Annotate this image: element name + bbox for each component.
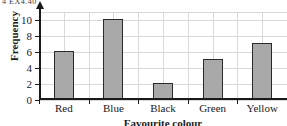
x-tick-label-red: Red <box>55 102 73 114</box>
x-tick-label-blue: Blue <box>103 102 124 114</box>
x-axis-line <box>39 98 287 100</box>
gridline-vertical <box>188 12 189 100</box>
y-tick-label: 2 <box>27 78 33 90</box>
y-axis-arrow-icon <box>36 1 44 9</box>
y-tick-mark <box>35 36 40 37</box>
y-axis-tick-labels: 0246810 <box>0 0 36 126</box>
gridline-vertical <box>138 12 139 100</box>
bar-chart-figure: 4 EX4.40 Frequency 0246810 RedBlueBlackG… <box>0 0 287 126</box>
x-axis-title: Favourite colour <box>39 117 287 126</box>
y-tick-label: 0 <box>27 94 33 106</box>
x-axis-tick-labels: RedBlueBlackGreenYellow <box>39 102 287 116</box>
y-tick-mark <box>35 52 40 53</box>
y-tick-mark <box>35 20 40 21</box>
x-tick-label-yellow: Yellow <box>247 102 278 114</box>
gridline-vertical <box>237 12 238 100</box>
bar-green <box>203 59 223 99</box>
plot-area <box>39 12 287 100</box>
y-tick-mark <box>35 68 40 69</box>
y-tick-label: 6 <box>27 46 33 58</box>
x-tick-label-green: Green <box>199 102 226 114</box>
y-tick-label: 4 <box>27 62 33 74</box>
bar-blue <box>103 19 123 99</box>
y-tick-label: 10 <box>21 14 32 26</box>
y-tick-label: 8 <box>27 30 33 42</box>
bar-black <box>153 83 173 99</box>
gridline-horizontal <box>39 100 287 101</box>
x-tick-label-black: Black <box>150 102 176 114</box>
bar-red <box>54 51 74 99</box>
y-tick-mark <box>35 84 40 85</box>
bar-yellow <box>252 43 272 99</box>
gridline-vertical <box>89 12 90 100</box>
